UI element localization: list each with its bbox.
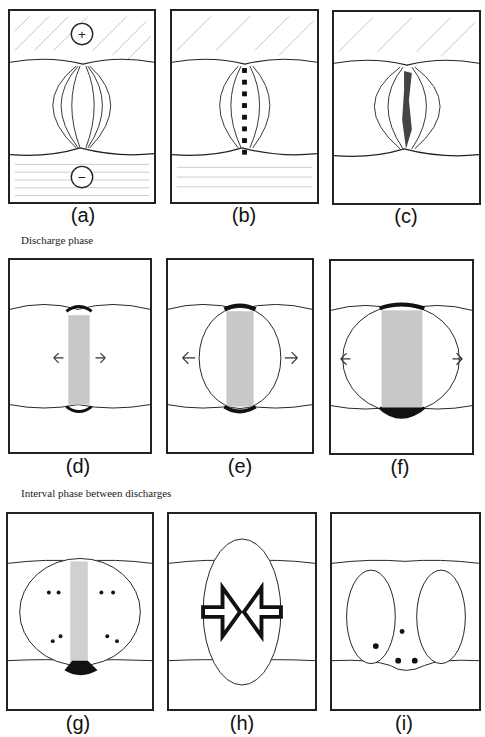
caption-b: (b) [214, 204, 274, 227]
panel-f [329, 259, 474, 455]
field-lines-diagram: + − [10, 11, 154, 202]
caption-i: (i) [374, 712, 434, 735]
caption-f: (f) [370, 456, 430, 479]
panel-e [166, 258, 314, 454]
caption-g: (g) [48, 712, 108, 735]
panel-g [6, 512, 154, 711]
phase-label-discharge: Discharge phase [21, 234, 93, 246]
phase-label-interval: Interval phase between discharges [21, 487, 171, 499]
panel-c [332, 10, 481, 205]
panel-d [8, 258, 152, 454]
plus-symbol: + [78, 27, 86, 42]
caption-a: (a) [53, 204, 113, 227]
caption-e: (e) [210, 455, 270, 478]
caption-h: (h) [212, 712, 272, 735]
panel-h [167, 512, 317, 711]
panel-i [330, 512, 481, 711]
panel-b [170, 9, 319, 204]
panel-a: + − [8, 9, 156, 204]
caption-d: (d) [48, 455, 108, 478]
caption-c: (c) [376, 205, 436, 228]
minus-symbol: − [78, 170, 86, 185]
